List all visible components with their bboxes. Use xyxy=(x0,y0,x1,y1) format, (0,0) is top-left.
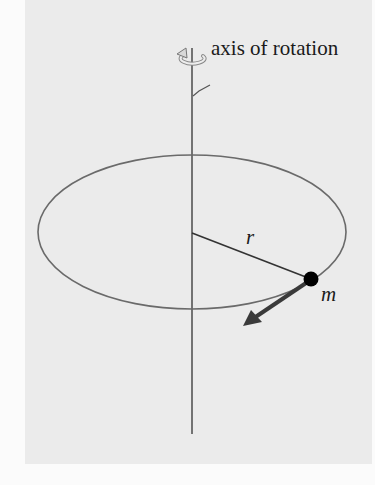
axis-label-leader xyxy=(193,85,210,96)
rotation-diagram xyxy=(0,0,375,485)
radius-label: r xyxy=(246,225,254,250)
rotation-arrow-icon xyxy=(177,48,205,63)
mass-label: m xyxy=(321,282,336,307)
axis-of-rotation-label: axis of rotation xyxy=(211,36,338,61)
mass-dot xyxy=(304,272,319,287)
